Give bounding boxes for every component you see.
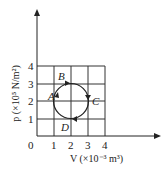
point-d-label: D [61, 122, 69, 133]
point-b-label: B [58, 71, 65, 82]
x-tick-4: 4 [102, 140, 108, 151]
x-tick-2: 2 [68, 140, 74, 151]
x-tick-3: 3 [85, 140, 91, 151]
point-a-label: A [48, 91, 55, 102]
x-tick-0: 0 [28, 140, 34, 151]
y-tick-4: 4 [28, 61, 34, 72]
y-axis-label: p (×10⁵ N/m²) [10, 49, 21, 139]
pv-diagram [0, 0, 168, 176]
arrow-at-d-icon [72, 116, 77, 122]
x-tick-1: 1 [51, 140, 57, 151]
arrow-at-c-icon [85, 95, 91, 100]
y-tick-1: 1 [28, 114, 34, 125]
point-c-label: C [92, 96, 99, 107]
y-axis-arrow-icon [34, 9, 40, 16]
x-axis-label: V (×10⁻³ m³) [70, 153, 123, 164]
y-tick-3: 3 [28, 79, 34, 90]
y-tick-2: 2 [28, 96, 34, 107]
x-axis-arrow-icon [154, 133, 161, 139]
arrow-at-b-icon [65, 81, 70, 87]
